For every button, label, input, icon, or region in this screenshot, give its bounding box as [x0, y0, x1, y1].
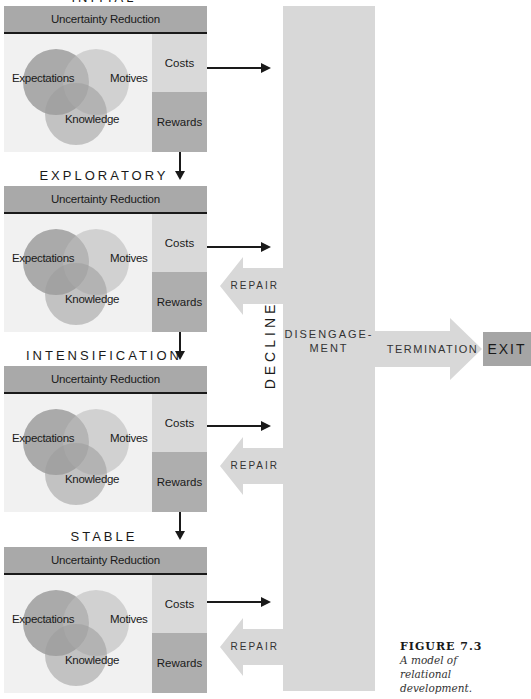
rewards-box: Rewards: [152, 92, 207, 152]
venn-expectations: Expectations: [12, 72, 74, 84]
arrow-costs-to-decline-3: [207, 425, 269, 427]
figure-caption: FIGURE 7.3 A model of relational develop…: [400, 640, 530, 695]
stage-label-exploratory: EXPLORATORY: [4, 168, 204, 183]
stage-label-initial: INITIAL: [4, 0, 204, 5]
stage-label-stable: STABLE: [4, 529, 204, 544]
venn-expectations: Expectations: [12, 432, 74, 444]
venn-knowledge: Knowledge: [65, 654, 119, 666]
venn-diagram: [4, 394, 152, 512]
venn-motives: Motives: [110, 72, 148, 84]
venn-motives: Motives: [110, 252, 148, 264]
costs-box: Costs: [152, 394, 207, 452]
uncertainty-reduction-header: Uncertainty Reduction: [4, 186, 207, 214]
stage-panel-intensification: Uncertainty Reduction Expectations Motiv…: [4, 366, 207, 512]
rewards-box: Rewards: [152, 452, 207, 512]
repair-arrow-1: REPAIR: [220, 257, 283, 315]
stage-panel-stable: Uncertainty Reduction Expectations Motiv…: [4, 547, 207, 693]
costs-box: Costs: [152, 34, 207, 92]
venn-expectations: Expectations: [12, 613, 74, 625]
costs-box: Costs: [152, 575, 207, 633]
arrow-costs-to-decline-4: [207, 601, 269, 603]
venn-diagram: [4, 34, 152, 152]
venn-knowledge: Knowledge: [65, 293, 119, 305]
stage-label-intensification: INTENSIFICATION: [4, 348, 204, 363]
uncertainty-reduction-header: Uncertainty Reduction: [4, 366, 207, 394]
stage-panel-exploratory: Uncertainty Reduction Expectations Motiv…: [4, 186, 207, 332]
uncertainty-reduction-header: Uncertainty Reduction: [4, 547, 207, 575]
costs-box: Costs: [152, 214, 207, 272]
rewards-box: Rewards: [152, 272, 207, 332]
venn-knowledge: Knowledge: [65, 113, 119, 125]
arrow-costs-to-decline-1: [207, 67, 269, 69]
venn-diagram: [4, 214, 152, 332]
caption-line: development.: [400, 681, 530, 695]
disengagement-label: DISENGAGE- MENT: [283, 327, 375, 355]
venn-motives: Motives: [110, 613, 148, 625]
stage-panel-initial: Uncertainty Reduction Expectations Motiv…: [4, 6, 207, 152]
venn-knowledge: Knowledge: [65, 473, 119, 485]
repair-arrow-2: REPAIR: [220, 437, 283, 495]
figure-number: FIGURE 7.3: [400, 640, 530, 653]
venn-motives: Motives: [110, 432, 148, 444]
venn-diagram: [4, 575, 152, 693]
exit-box: EXIT: [483, 332, 531, 366]
arrow-costs-to-decline-2: [207, 246, 269, 248]
rewards-box: Rewards: [152, 633, 207, 693]
caption-line: A model of: [400, 653, 530, 667]
venn-expectations: Expectations: [12, 252, 74, 264]
caption-line: relational: [400, 667, 530, 681]
repair-arrow-3: REPAIR: [220, 618, 283, 676]
uncertainty-reduction-header: Uncertainty Reduction: [4, 6, 207, 34]
